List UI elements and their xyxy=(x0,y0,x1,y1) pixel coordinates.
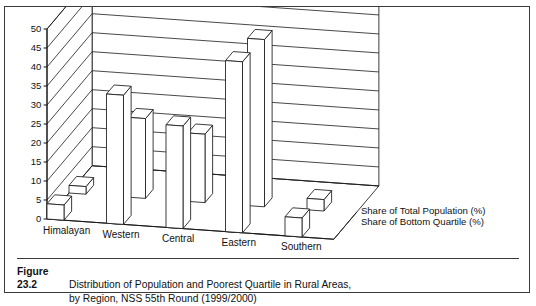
x-axis-category-himalayan: Himalayan xyxy=(43,225,90,236)
caption-line-1: Distribution of Population and Poorest Q… xyxy=(69,279,351,290)
y-axis-tick-20: 20 xyxy=(21,137,41,148)
figure-frame: Share of Total Population (%) Share of B… xyxy=(4,6,530,293)
caption-line-2: by Region, NSS 55th Round (1999/2000) xyxy=(17,292,519,305)
y-axis-tick-10: 10 xyxy=(21,175,41,186)
y-axis-tick-50: 50 xyxy=(21,23,41,34)
y-axis-tick-25: 25 xyxy=(21,118,41,129)
y-axis-tick-30: 30 xyxy=(21,99,41,110)
y-axis-tick-15: 15 xyxy=(21,156,41,167)
y-axis-tick-45: 45 xyxy=(21,42,41,53)
figure-number: Figure 23.2 xyxy=(17,265,69,292)
x-axis-category-southern: Southern xyxy=(281,241,322,252)
y-axis-tick-40: 40 xyxy=(21,61,41,72)
y-axis-tick-5: 5 xyxy=(21,194,41,205)
x-axis-category-western: Western xyxy=(103,229,140,240)
legend-item-bottom-quartile: Share of Bottom Quartile (%) xyxy=(361,216,486,228)
x-axis-category-eastern: Eastern xyxy=(222,237,256,248)
x-axis-category-central: Central xyxy=(162,233,194,244)
y-axis-tick-0: 0 xyxy=(21,213,41,224)
legend-item-total-population: Share of Total Population (%) xyxy=(361,205,486,217)
figure-caption: Figure 23.2Distribution of Population an… xyxy=(17,265,519,305)
chart-legend: Share of Total Population (%) Share of B… xyxy=(361,205,486,228)
caption-divider xyxy=(17,258,519,259)
y-axis-tick-35: 35 xyxy=(21,80,41,91)
